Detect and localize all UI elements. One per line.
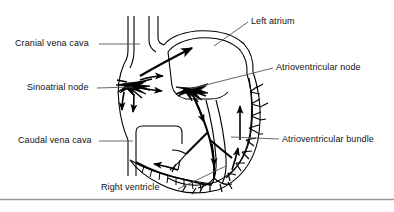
leader-right-ventricle	[178, 166, 226, 189]
great-vessel-wall-left	[149, 16, 156, 52]
right-ventricle-inner-wall	[136, 126, 182, 146]
label-cranial-vena-cava: Cranial vena cava	[15, 38, 89, 49]
left-atrium-inner-wall	[168, 38, 247, 74]
great-vessel-wall-right	[158, 16, 164, 45]
label-sinoatrial-node: Sinoatrial node	[27, 82, 89, 93]
figure-container: Cranial vena cava Sinoatrial node Caudal…	[0, 0, 394, 212]
cranial-vena-cava-wall-inner	[130, 16, 134, 68]
av-bundle-main-trunk	[194, 98, 214, 178]
label-atrioventricular-node: Atrioventricular node	[276, 62, 361, 73]
label-atrioventricular-bundle: Atrioventricular bundle	[282, 134, 374, 145]
interventricular-septum-left	[216, 100, 226, 184]
arrow-av-node-to-bundle	[196, 102, 204, 122]
arrow-atrial-spread-lower	[140, 88, 162, 91]
arrow-to-left-atrium	[140, 48, 192, 76]
arrow-atrial-spread-downleft	[122, 92, 124, 110]
heart-outline	[118, 16, 260, 193]
av-bundle-right-branch	[186, 132, 208, 154]
arrow-atrial-spread-down	[133, 94, 134, 112]
cranial-vena-cava-wall-outer	[124, 16, 128, 64]
left-atrium-outer-wall	[164, 31, 253, 72]
heart-conduction-diagram	[0, 0, 394, 212]
label-right-ventricle: Right ventricle	[101, 182, 160, 193]
label-caudal-vena-cava: Caudal vena cava	[18, 135, 92, 146]
label-left-atrium: Left atrium	[251, 16, 295, 27]
